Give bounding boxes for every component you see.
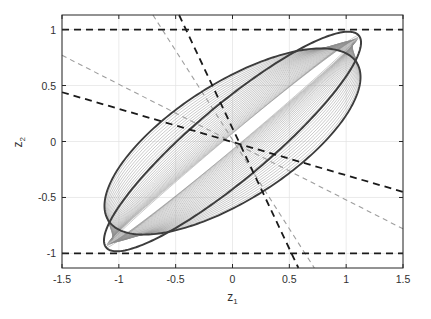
x-axis-tick-label: -0.5 xyxy=(167,273,185,285)
figure-container: -1.5-1-0.500.511.510.50-0.5-1z1z2 xyxy=(0,0,431,319)
x-axis-tick-label: -1 xyxy=(114,273,123,285)
x-axis-title: z1 xyxy=(227,290,237,306)
plot-canvas xyxy=(0,0,431,319)
x-axis-tick-label: 1.5 xyxy=(396,273,411,285)
x-axis-title-subscript: 1 xyxy=(233,297,237,306)
x-axis-tick-label: 0 xyxy=(230,273,236,285)
y-axis-title-text: z xyxy=(11,141,25,147)
y-axis-tick-label: 0 xyxy=(50,136,56,148)
x-axis-tick-label: 0.5 xyxy=(282,273,297,285)
y-axis-tick-label: 0.5 xyxy=(41,80,56,92)
y-axis-tick-label: 1 xyxy=(50,24,56,36)
y-axis-tick-label: -1 xyxy=(47,247,56,259)
y-axis-tick-label: -0.5 xyxy=(38,191,56,203)
x-axis-tick-label: 1 xyxy=(343,273,349,285)
y-axis-title-subscript: 2 xyxy=(18,136,27,140)
x-axis-tick-label: -1.5 xyxy=(53,273,71,285)
y-axis-title: z2 xyxy=(11,136,27,146)
